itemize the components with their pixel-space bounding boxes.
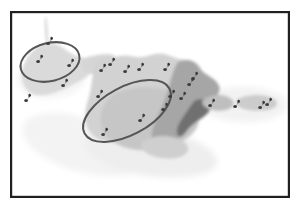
map-canvas <box>0 0 300 209</box>
map-figure <box>0 0 300 209</box>
